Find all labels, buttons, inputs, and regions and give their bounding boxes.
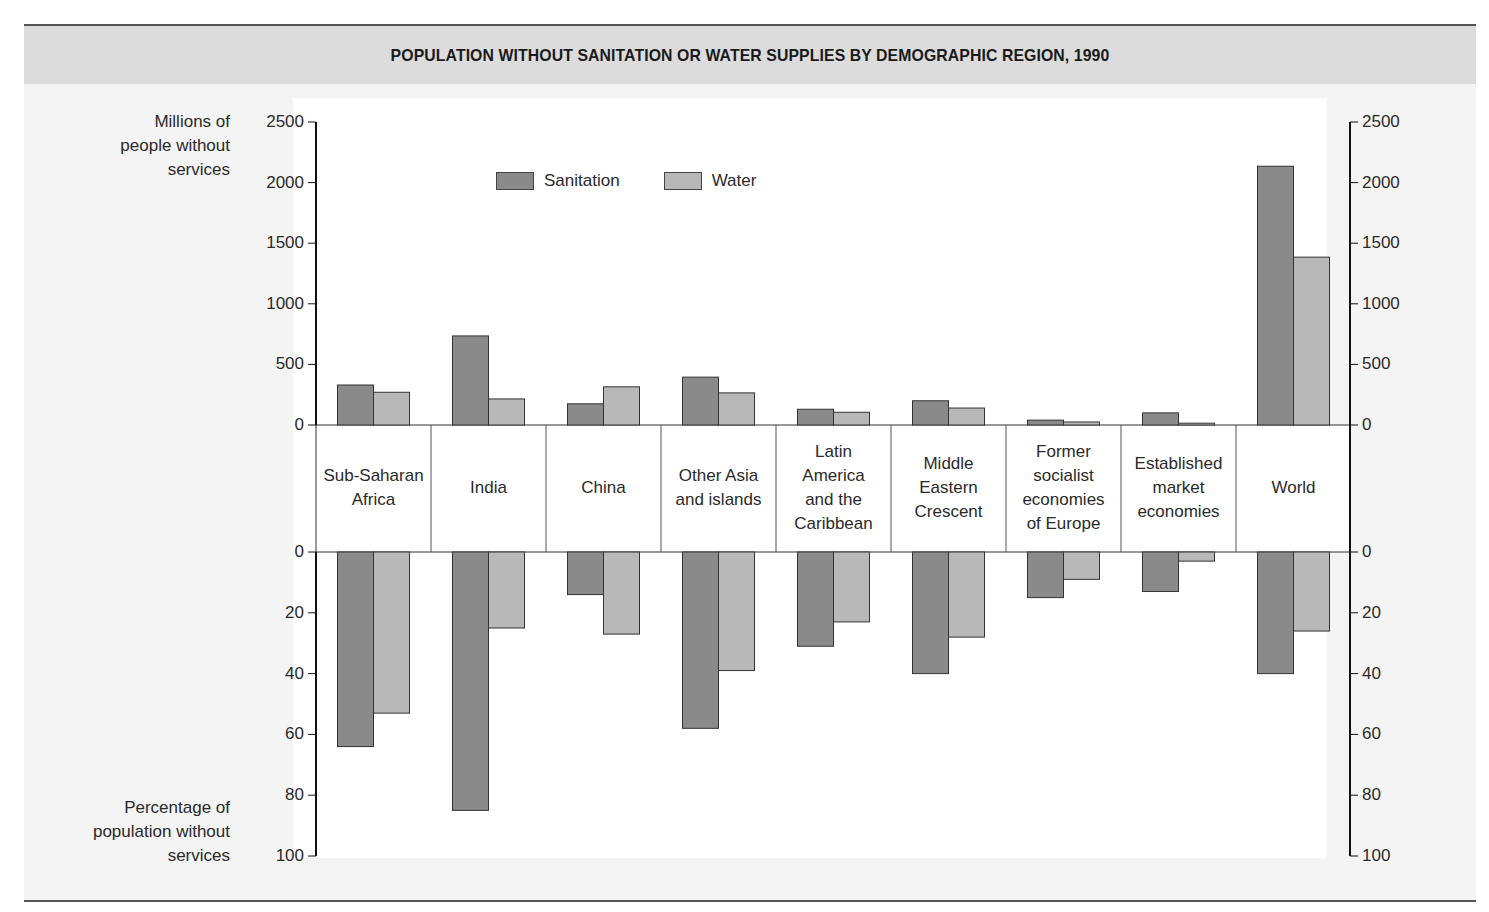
sanitation-bar [798,409,834,425]
sanitation-pct-bar [1143,552,1179,592]
tick-label: 100 [1362,846,1390,866]
sanitation-bar [568,404,604,425]
tick-label: 1500 [1362,233,1400,253]
tick-label: 2000 [266,173,304,193]
tick-label: 40 [1362,664,1381,684]
tick-label: 100 [276,846,304,866]
sanitation-pct-bar [683,552,719,728]
tick-label: 40 [285,664,304,684]
sanitation-bar [1143,413,1179,425]
tick-label: 60 [1362,724,1381,744]
tick-label: 2500 [1362,112,1400,132]
region-label: Establishedmarketeconomies [1121,425,1236,551]
water-bar [1294,257,1330,425]
water-pct-bar [1294,552,1330,631]
sanitation-bar [1258,166,1294,425]
region-label: Other Asiaand islands [661,425,776,551]
sanitation-bar [683,377,719,425]
water-bar [604,387,640,425]
legend-item-sanitation: Sanitation [496,171,620,191]
sanitation-bar [913,401,949,425]
region-label: Sub-SaharanAfrica [316,425,431,551]
legend-item-water: Water [664,171,757,191]
water-bar [489,399,525,425]
bottom-axis-title: Percentage of population without service… [40,796,230,868]
tick-label: 0 [1362,415,1371,435]
water-swatch [664,172,702,190]
top-axis-title: Millions of people without services [60,110,230,182]
region-label: India [431,425,546,551]
region-label: World [1236,425,1351,551]
region-label: LatinAmericaand theCaribbean [776,425,891,551]
water-pct-bar [719,552,755,671]
water-pct-bar [949,552,985,637]
tick-label: 1500 [266,233,304,253]
region-label: Formersocialisteconomiesof Europe [1006,425,1121,551]
sanitation-bar [338,385,374,425]
tick-label: 0 [1362,542,1371,562]
tick-label: 2000 [1362,173,1400,193]
tick-label: 1000 [266,294,304,314]
tick-label: 500 [276,354,304,374]
sanitation-pct-bar [1028,552,1064,598]
water-bar [949,408,985,425]
water-pct-bar [1179,552,1215,561]
water-pct-bar [604,552,640,634]
water-pct-bar [834,552,870,622]
sanitation-swatch [496,172,534,190]
region-label: China [546,425,661,551]
water-pct-bar [489,552,525,628]
region-label: MiddleEasternCrescent [891,425,1006,551]
sanitation-pct-bar [798,552,834,646]
tick-label: 1000 [1362,294,1400,314]
tick-label: 20 [1362,603,1381,623]
water-pct-bar [1064,552,1100,579]
water-bar [719,393,755,425]
tick-label: 80 [1362,785,1381,805]
water-pct-bar [374,552,410,713]
sanitation-pct-bar [568,552,604,595]
legend: Sanitation Water [496,170,800,192]
sanitation-bar [453,336,489,425]
tick-label: 0 [295,415,304,435]
water-bar [834,412,870,425]
tick-label: 20 [285,603,304,623]
tick-label: 500 [1362,354,1390,374]
water-bar [374,392,410,425]
tick-label: 80 [285,785,304,805]
tick-label: 0 [295,542,304,562]
tick-label: 60 [285,724,304,744]
sanitation-pct-bar [338,552,374,747]
sanitation-pct-bar [1258,552,1294,674]
sanitation-pct-bar [913,552,949,674]
tick-label: 2500 [266,112,304,132]
sanitation-pct-bar [453,552,489,810]
